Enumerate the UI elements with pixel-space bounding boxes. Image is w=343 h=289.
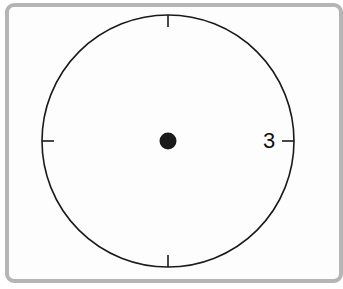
center-dot [160,133,177,150]
numeral-3: 3 [263,130,275,152]
